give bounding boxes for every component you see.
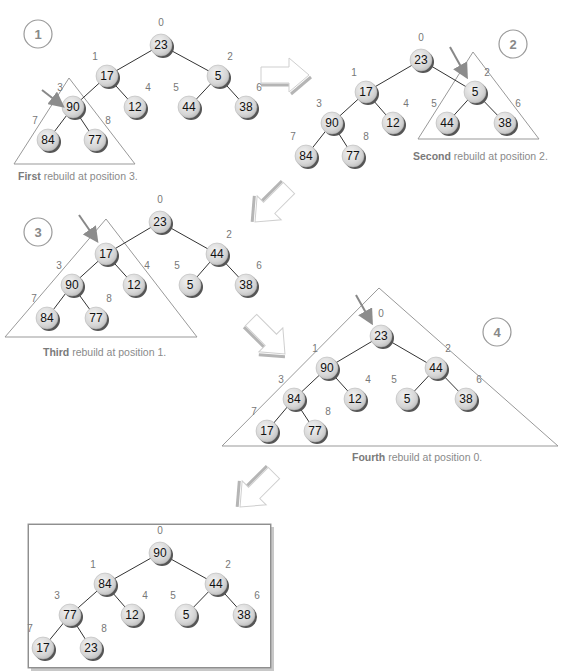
node-value: 84 — [40, 311, 54, 325]
node-value: 77 — [346, 149, 360, 163]
heap-node: 843 — [278, 374, 307, 412]
heap-node: 445 — [173, 82, 202, 120]
node-value: 38 — [498, 116, 512, 130]
heap-panel-1: 23017152903124445386847778 — [32, 17, 262, 153]
caption-text: rebuild at position 2. — [451, 150, 548, 162]
caption-text: rebuild at position 0. — [385, 451, 482, 463]
node-value: 90 — [153, 546, 167, 560]
node-index: 3 — [316, 98, 322, 109]
heap-node: 55 — [174, 260, 203, 298]
node-index: 1 — [92, 51, 98, 62]
heap-node: 901 — [312, 343, 340, 381]
node-value: 44 — [209, 577, 223, 591]
flow-arrow-right-icon — [261, 58, 311, 94]
node-value: 12 — [348, 392, 362, 406]
heap-panel-2: 23017152903124445386847778 — [290, 32, 521, 169]
node-index: 8 — [363, 131, 369, 142]
node-index: 7 — [32, 115, 38, 126]
node-value: 84 — [287, 392, 301, 406]
heap-node: 230 — [370, 308, 394, 349]
heap-node: 847 — [31, 293, 60, 331]
flow-arrow-down-left-icon — [225, 460, 286, 521]
rebuild-pointer-arrow-icon — [450, 47, 465, 74]
svg-text:3: 3 — [34, 225, 41, 240]
heap-node: 177 — [251, 406, 280, 444]
heap-node: 171 — [351, 67, 379, 105]
node-index: 5 — [170, 590, 176, 601]
final-heap-frame — [28, 524, 274, 671]
node-value: 90 — [65, 278, 79, 292]
node-value: 77 — [88, 133, 102, 147]
node-index: 6 — [254, 590, 260, 601]
node-value: 84 — [299, 149, 313, 163]
svg-text:2: 2 — [509, 37, 516, 52]
node-value: 23 — [84, 641, 98, 655]
heap-node: 847 — [32, 115, 61, 153]
node-value: 90 — [325, 116, 339, 130]
heap-node: 386 — [235, 82, 262, 120]
heap-node: 847 — [290, 131, 319, 169]
heap-node: 442 — [206, 229, 232, 267]
node-index: 7 — [27, 623, 33, 634]
caption-text: rebuild at position 1. — [69, 346, 166, 358]
heap-node: 442 — [425, 343, 451, 381]
node-value: 44 — [440, 116, 454, 130]
heap-node: 903 — [57, 82, 86, 120]
node-value: 23 — [154, 38, 168, 52]
node-index: 2 — [484, 67, 490, 78]
heap-node: 55 — [391, 374, 420, 412]
node-value: 5 — [187, 278, 194, 292]
node-index: 5 — [174, 260, 180, 271]
node-value: 77 — [89, 311, 103, 325]
heap-node: 778 — [84, 115, 111, 153]
heap-node: 778 — [304, 406, 331, 444]
flow-arrow-down-right-icon — [238, 308, 299, 369]
node-value: 17 — [100, 69, 114, 83]
heap-node: 124 — [124, 82, 151, 120]
heap-node: 230 — [149, 194, 173, 235]
node-index: 5 — [391, 374, 397, 385]
node-value: 17 — [260, 424, 274, 438]
node-value: 5 — [472, 85, 479, 99]
node-index: 8 — [101, 623, 107, 634]
heap-node: 171 — [91, 229, 119, 267]
node-index: 0 — [418, 32, 424, 43]
flow-arrow-down-left-icon — [240, 175, 301, 236]
node-index: 7 — [31, 293, 37, 304]
heap-node: 386 — [494, 98, 521, 136]
caption-text: rebuild at position 3. — [41, 170, 138, 182]
heap-node: 52 — [464, 67, 490, 105]
caption-panel-2: Second rebuild at position 2. — [413, 150, 548, 162]
node-value: 44 — [429, 361, 443, 375]
heap-node: 124 — [344, 374, 371, 412]
node-value: 23 — [374, 329, 388, 343]
subtree-triangles — [5, 52, 558, 446]
node-index: 1 — [312, 343, 318, 354]
heap-node: 903 — [316, 98, 345, 136]
node-value: 44 — [182, 100, 196, 114]
node-value: 17 — [359, 85, 373, 99]
node-value: 5 — [404, 392, 411, 406]
caption-panel-3: Third rebuild at position 1. — [43, 346, 166, 358]
node-value: 5 — [183, 608, 190, 622]
node-index: 4 — [142, 590, 148, 601]
node-value: 12 — [127, 278, 141, 292]
step-badge: 4 — [483, 318, 511, 346]
node-value: 84 — [41, 133, 55, 147]
node-index: 2 — [227, 51, 233, 62]
node-index: 4 — [365, 374, 371, 385]
node-index: 0 — [158, 17, 164, 28]
node-index: 3 — [56, 260, 62, 271]
heap-node: 124 — [123, 260, 150, 298]
node-value: 77 — [308, 424, 322, 438]
heap-node: 230 — [150, 17, 174, 58]
node-index: 3 — [278, 374, 284, 385]
node-value: 38 — [237, 608, 251, 622]
rebuild-pointer-arrow-icon — [79, 215, 95, 238]
heap-node: 171 — [92, 51, 120, 89]
node-index: 4 — [145, 82, 151, 93]
node-index: 1 — [90, 559, 96, 570]
node-index: 7 — [251, 406, 257, 417]
node-index: 4 — [403, 98, 409, 109]
heap-node: 230 — [410, 32, 434, 73]
